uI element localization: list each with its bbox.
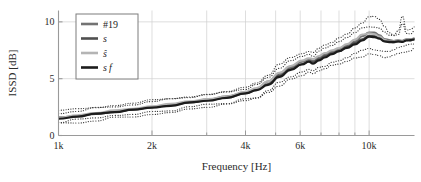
- chart-canvas: 05101k2k4k6k10kFrequency [Hz]ISSD [dB]#1…: [0, 0, 421, 182]
- x-axis-title: Frequency [Hz]: [202, 160, 271, 172]
- x-tick-label: 10k: [362, 140, 377, 151]
- x-tick-label: 6k: [295, 140, 305, 151]
- legend-label-0: #19: [103, 19, 118, 30]
- legend-label-3: s f: [103, 62, 113, 73]
- issd-frequency-chart: 05101k2k4k6k10kFrequency [Hz]ISSD [dB]#1…: [0, 0, 421, 182]
- y-axis-title: ISSD [dB]: [6, 50, 18, 97]
- x-tick-label: 4k: [241, 140, 251, 151]
- x-tick-label: 1k: [54, 140, 64, 151]
- legend-label-2: ŝ: [103, 48, 107, 59]
- x-tick-label: 2k: [147, 140, 157, 151]
- y-tick-label: 5: [50, 73, 55, 84]
- legend: #19sŝs f: [76, 14, 138, 79]
- legend-label-1: s: [103, 33, 107, 44]
- y-tick-label: 10: [45, 16, 55, 27]
